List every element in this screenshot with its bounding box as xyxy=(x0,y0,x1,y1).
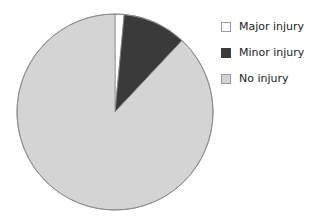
legend-swatch-no-injury xyxy=(221,74,231,84)
pie-chart-svg xyxy=(0,0,225,221)
legend-swatch-major-injury xyxy=(221,22,231,32)
legend-item-minor-injury[interactable]: Minor injury xyxy=(221,45,321,60)
legend-label-minor-injury: Minor injury xyxy=(239,47,304,58)
legend-label-no-injury: No injury xyxy=(239,73,289,84)
chart-legend: Major injury Minor injury No injury xyxy=(221,19,321,97)
pie-slice-group xyxy=(17,14,213,210)
legend-item-major-injury[interactable]: Major injury xyxy=(221,19,321,34)
pie-slice-no-injury[interactable] xyxy=(17,14,213,210)
legend-item-no-injury[interactable]: No injury xyxy=(221,71,321,86)
legend-label-major-injury: Major injury xyxy=(239,21,304,32)
pie-chart-plot-area xyxy=(0,0,225,221)
pie-chart-figure: Major injury Minor injury No injury xyxy=(0,0,321,221)
legend-swatch-minor-injury xyxy=(221,48,231,58)
